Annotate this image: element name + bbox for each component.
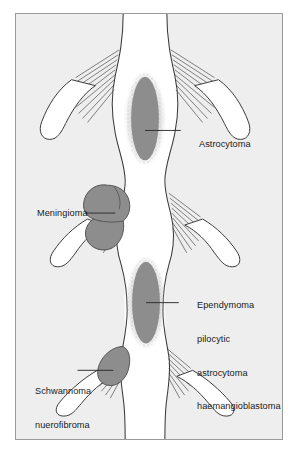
nerve-sheath-upper-right	[195, 80, 250, 140]
label-ependymoma-group: Ependymoma pilocytic astrocytoma haemang…	[197, 278, 281, 435]
label-astrocytoma: Astrocytoma	[199, 139, 251, 150]
label-ependymoma-line-3: astrocytoma	[197, 368, 281, 379]
astrocytoma-mass	[123, 70, 167, 168]
label-ependymoma-line-4: haemangioblastoma	[197, 401, 281, 412]
nerve-sheath-upper-left	[40, 80, 95, 140]
label-schwannoma-group: Schwannoma nuerofibroma	[35, 364, 91, 440]
label-schwannoma-line-1: Schwannoma	[35, 386, 91, 397]
label-schwannoma-line-2: nuerofibroma	[35, 420, 91, 431]
label-ependymoma-line-2: pilocytic	[197, 334, 281, 345]
label-ependymoma-line-1: Ependymoma	[197, 300, 281, 311]
figure-root: Astrocytoma Meningioma Ependymoma pilocy…	[0, 0, 297, 456]
diagram-frame: Astrocytoma Meningioma Ependymoma pilocy…	[15, 13, 283, 440]
label-meningioma: Meningioma	[37, 208, 88, 219]
